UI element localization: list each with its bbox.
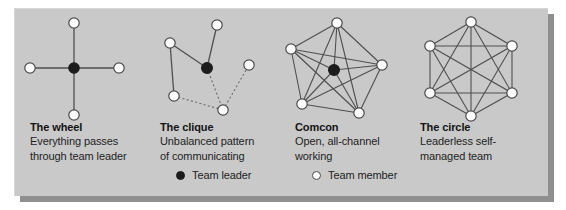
caption-desc-comcon: Open, all-channel working <box>295 134 423 163</box>
caption-desc-line: Everything passes <box>30 134 158 149</box>
caption-wheel: The wheel Everything passes through team… <box>30 120 158 163</box>
legend: Team leader Team member <box>0 169 566 187</box>
filled-circle-icon <box>176 171 185 180</box>
caption-desc-wheel: Everything passes through team leader <box>30 134 158 163</box>
caption-desc-clique: Unbalanced pattern of communicating <box>160 134 288 163</box>
legend-item-team-member: Team member <box>312 169 397 181</box>
caption-title-wheel: The wheel <box>30 120 158 134</box>
caption-desc-line: through team leader <box>30 149 158 164</box>
caption-title-circle: The circle <box>420 120 548 134</box>
caption-desc-circle: Leaderless self- managed team <box>420 134 548 163</box>
caption-circle: The circle Leaderless self- managed team <box>420 120 548 163</box>
legend-label-team-leader: Team leader <box>192 169 251 181</box>
caption-desc-line: Open, all-channel <box>295 134 423 149</box>
caption-desc-line: managed team <box>420 149 548 164</box>
caption-desc-line: working <box>295 149 423 164</box>
caption-desc-line: Unbalanced pattern <box>160 134 288 149</box>
caption-title-clique: The clique <box>160 120 288 134</box>
legend-item-team-leader: Team leader <box>176 169 251 181</box>
caption-desc-line: of communicating <box>160 149 288 164</box>
caption-desc-line: Leaderless self- <box>420 134 548 149</box>
caption-clique: The clique Unbalanced pattern of communi… <box>160 120 288 163</box>
caption-comcon: Comcon Open, all-channel working <box>295 120 423 163</box>
caption-title-comcon: Comcon <box>295 120 423 134</box>
network-patterns-figure: The wheel Everything passes through team… <box>0 0 566 210</box>
hollow-circle-icon <box>312 171 321 180</box>
legend-label-team-member: Team member <box>328 169 397 181</box>
